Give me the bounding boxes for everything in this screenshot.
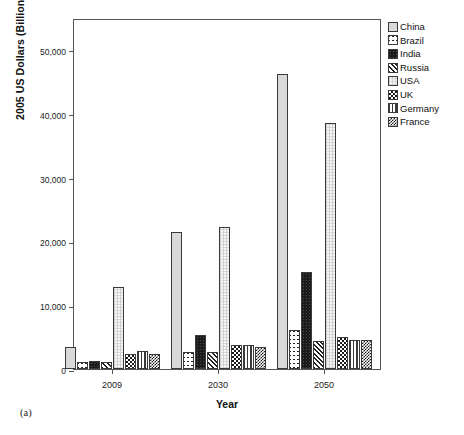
y-axis-tick-label: 30,000 [40, 175, 66, 185]
bar-uk-2050 [337, 337, 348, 369]
bar-group-2009 [65, 18, 160, 369]
legend-item-france: France [388, 115, 464, 129]
bar-germany-2050 [349, 340, 360, 369]
y-axis-tick-label: 0 [61, 366, 66, 376]
bar-group-2030 [171, 18, 266, 369]
bar-brazil-2050 [289, 330, 300, 369]
legend-label: Brazil [400, 36, 424, 46]
bar-usa-2050 [325, 123, 336, 369]
legend-swatch-usa-icon [388, 76, 398, 86]
y-axis-tick [69, 51, 74, 52]
legend-label: China [400, 22, 425, 32]
legend-label: Russia [400, 63, 429, 73]
bar-brazil-2009 [77, 362, 88, 369]
y-axis-tick-label: 40,000 [40, 111, 66, 121]
legend-item-brazil: Brazil [388, 34, 464, 48]
legend-label: India [400, 49, 421, 59]
y-axis-tick [69, 243, 74, 244]
bar-india-2009 [89, 361, 100, 369]
bar-usa-2030 [219, 227, 230, 369]
legend-swatch-china-icon [388, 22, 398, 32]
y-axis-tick-label: 20,000 [40, 238, 66, 248]
figure-caption: (a) [20, 407, 32, 418]
legend: ChinaBrazilIndiaRussiaUSAUKGermanyFrance [388, 20, 464, 129]
bar-france-2030 [255, 347, 266, 369]
x-axis-tick [112, 369, 113, 374]
bar-china-2030 [171, 232, 182, 369]
legend-item-usa: USA [388, 74, 464, 88]
bar-uk-2030 [231, 345, 242, 369]
x-axis-tick [324, 369, 325, 374]
bar-usa-2009 [113, 287, 124, 369]
bar-france-2009 [149, 354, 160, 369]
bar-germany-2009 [137, 351, 148, 370]
legend-label: Germany [400, 104, 439, 114]
y-axis-tick-label: 50,000 [40, 47, 66, 57]
bar-russia-2050 [313, 341, 324, 369]
bar-france-2050 [361, 340, 372, 369]
y-axis-tick [69, 179, 74, 180]
legend-item-china: China [388, 20, 464, 34]
legend-item-india: India [388, 47, 464, 61]
legend-swatch-france-icon [388, 117, 398, 127]
bars-layer [74, 18, 380, 369]
x-axis-tick-label: 2050 [314, 380, 334, 390]
x-axis-tick [218, 369, 219, 374]
legend-swatch-germany-icon [388, 103, 398, 113]
legend-label: France [400, 117, 430, 127]
bar-russia-2030 [207, 352, 218, 369]
y-axis-tick [69, 307, 74, 308]
x-axis-tick-label: 2009 [102, 380, 122, 390]
legend-swatch-brazil-icon [388, 35, 398, 45]
bar-uk-2009 [125, 354, 136, 369]
legend-swatch-uk-icon [388, 90, 398, 100]
bar-group-2050 [277, 18, 372, 369]
legend-item-uk: UK [388, 88, 464, 102]
figure-container: 2005 US Dollars (Billion) 010,00020,0003… [0, 0, 464, 435]
legend-item-russia: Russia [388, 61, 464, 75]
legend-swatch-russia-icon [388, 63, 398, 73]
bar-russia-2009 [101, 362, 112, 369]
legend-swatch-india-icon [388, 49, 398, 59]
legend-item-germany: Germany [388, 102, 464, 116]
y-axis-tick-label: 10,000 [40, 302, 66, 312]
y-axis-tick [69, 371, 74, 372]
legend-label: UK [400, 90, 413, 100]
x-axis-title: Year [73, 398, 381, 410]
x-axis-tick-label: 2030 [208, 380, 228, 390]
legend-label: USA [400, 76, 420, 86]
bar-germany-2030 [243, 345, 254, 369]
bar-china-2050 [277, 74, 288, 369]
y-axis-title: 2005 US Dollars (Billion) [14, 0, 26, 120]
plot-area: 010,00020,00030,00040,00050,000200920302… [73, 19, 381, 370]
bar-india-2050 [301, 272, 312, 369]
bar-india-2030 [195, 335, 206, 369]
bar-brazil-2030 [183, 352, 194, 369]
y-axis-tick [69, 115, 74, 116]
